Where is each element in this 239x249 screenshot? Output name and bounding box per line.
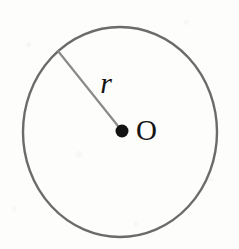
radius-label: r — [100, 66, 112, 99]
radius-line — [58, 51, 122, 131]
circle-diagram-figure: r O — [0, 0, 239, 249]
center-dot — [116, 125, 129, 138]
center-label: O — [136, 114, 157, 146]
diagram-canvas: r O — [0, 0, 239, 249]
